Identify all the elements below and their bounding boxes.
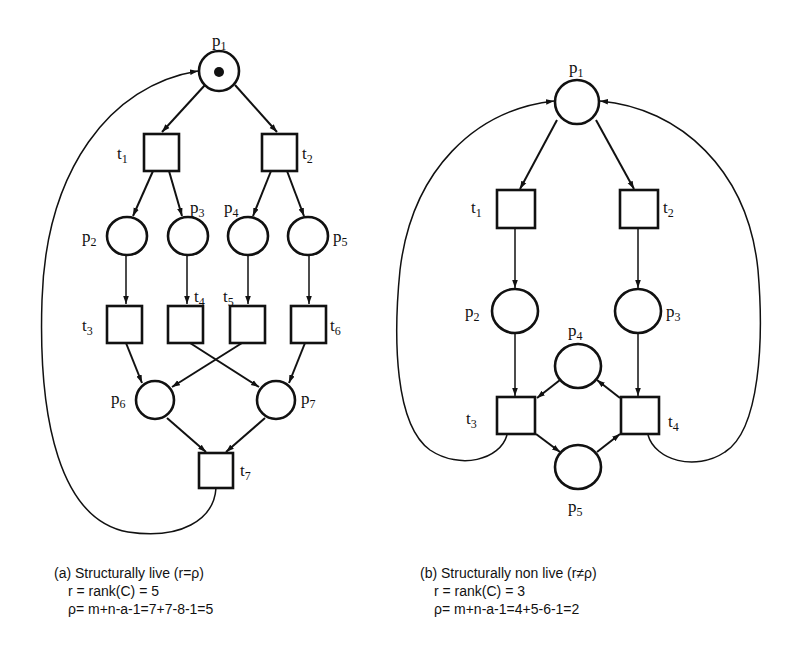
transition-b-t4 <box>621 397 659 434</box>
label-a-t1: t1 <box>117 144 128 166</box>
label-a-p7: p7 <box>301 389 316 411</box>
petri-net-figure: p1 t1 t2 p2 p3 p4 p5 t3 t4 t5 t6 p6 p7 t… <box>0 0 786 662</box>
label-b-t4: t4 <box>668 412 679 434</box>
arc-a-t1-p2 <box>133 171 153 216</box>
caption-a: (a) Structurally live (r=ρ) r = rank(C) … <box>54 564 213 618</box>
place-b-p1 <box>555 80 599 124</box>
net-a-places <box>107 51 328 419</box>
arc-b-p1-t1 <box>520 120 557 189</box>
caption-b: (b) Structurally non live (r≠ρ) r = rank… <box>420 564 597 618</box>
arc-a-t2-p4 <box>253 171 271 216</box>
label-a-t6: t6 <box>330 316 341 338</box>
label-a-p1: p1 <box>212 31 227 53</box>
arc-b-t3-p5 <box>536 434 560 452</box>
arc-a-p1-t2 <box>235 85 277 132</box>
place-a-p7 <box>257 381 295 419</box>
arc-a-t3-p6 <box>126 343 142 383</box>
label-b-p1: p1 <box>569 58 584 80</box>
caption-a-rank: r = rank(C) = 5 <box>54 582 213 600</box>
label-a-p6: p6 <box>111 389 126 411</box>
label-b-t3: t3 <box>466 409 477 431</box>
label-a-t5: t5 <box>223 287 234 309</box>
label-b-p5: p5 <box>568 497 583 519</box>
transition-a-t2 <box>262 134 297 171</box>
place-b-p4 <box>555 344 601 388</box>
caption-a-rho: ρ= m+n-a-1=7+7-8-1=5 <box>54 600 213 618</box>
arc-a-t7-p1-loop <box>42 71 216 534</box>
arc-a-t2-p5 <box>287 171 304 216</box>
place-a-p2 <box>107 217 147 255</box>
caption-b-title: (b) Structurally non live (r≠ρ) <box>420 564 597 582</box>
label-b-t1: t1 <box>471 198 482 220</box>
arc-a-t5-p6 <box>172 343 242 387</box>
transition-a-t1 <box>144 134 179 171</box>
label-a-p5: p5 <box>333 227 348 249</box>
transition-a-t7 <box>199 453 233 488</box>
place-b-p2 <box>492 289 538 333</box>
label-a-t2: t2 <box>302 144 313 166</box>
place-a-p6 <box>136 381 174 419</box>
place-a-p3 <box>168 217 208 255</box>
net-a: p1 t1 t2 p2 p3 p4 p5 t3 t4 t5 t6 p6 p7 t… <box>42 31 348 534</box>
arc-a-p7-t7 <box>226 418 265 452</box>
place-a-p5 <box>288 217 328 255</box>
place-b-p3 <box>615 289 661 333</box>
caption-a-title: (a) Structurally live (r=ρ) <box>54 564 213 582</box>
label-b-p4: p4 <box>568 321 583 343</box>
net-b: p1 t1 t2 p2 p3 p4 t3 t4 p5 <box>397 58 761 519</box>
arc-b-p5-t4 <box>597 434 620 452</box>
caption-b-rank: r = rank(C) = 3 <box>420 582 597 600</box>
label-a-t7: t7 <box>240 461 251 483</box>
caption-b-rho: ρ= m+n-a-1=4+5-6-1=2 <box>420 600 597 618</box>
transition-b-t2 <box>620 190 658 228</box>
token-icon <box>214 67 224 77</box>
transition-a-t3 <box>107 306 142 343</box>
arc-a-t1-p3 <box>169 171 182 216</box>
transition-a-t4 <box>168 306 203 343</box>
place-b-p5 <box>555 445 601 489</box>
arc-a-p6-t7 <box>167 418 206 452</box>
arc-a-t6-p7 <box>289 343 305 383</box>
label-b-t2: t2 <box>663 198 674 220</box>
arc-b-p1-t2 <box>596 120 634 189</box>
transition-b-t3 <box>497 397 535 434</box>
label-a-p4: p4 <box>224 198 239 220</box>
arc-b-p4-t3 <box>537 380 560 398</box>
transition-a-t6 <box>291 306 326 343</box>
label-a-t3: t3 <box>82 316 93 338</box>
arc-a-t4-p7 <box>190 343 259 387</box>
label-a-p3: p3 <box>190 198 205 220</box>
label-b-p2: p2 <box>465 302 480 324</box>
net-a-labels: p1 t1 t2 p2 p3 p4 p5 t3 t4 t5 t6 p6 p7 t… <box>82 31 348 483</box>
arc-b-t4-p4 <box>597 380 620 398</box>
place-a-p4 <box>228 217 268 255</box>
transition-a-t5 <box>230 306 265 343</box>
label-a-p2: p2 <box>82 227 97 249</box>
transition-b-t1 <box>497 190 535 228</box>
label-b-p3: p3 <box>666 302 681 324</box>
net-b-arcs <box>397 101 761 462</box>
label-a-t4: t4 <box>194 287 205 309</box>
arc-a-p1-t1 <box>162 85 205 132</box>
